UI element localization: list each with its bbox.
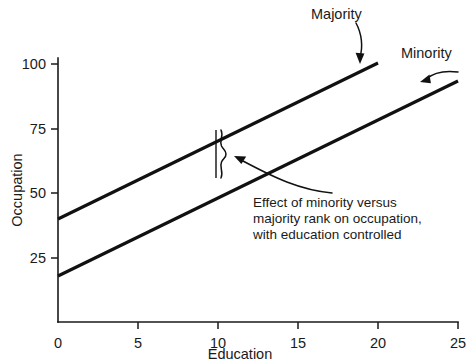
y-axis-title: Occupation: [9, 153, 25, 226]
y-tick-label-100: 100: [22, 56, 46, 72]
x-tick-marks: [138, 322, 458, 329]
chart-canvas: 100 75 50 25 0 5 10 15 20 25 Education O…: [0, 0, 471, 362]
series-line-minority: [58, 81, 458, 276]
annotation-leader-arrow: [234, 156, 332, 193]
annotation-line-1: Effect of minority versus: [253, 195, 397, 210]
chart-figure: 100 75 50 25 0 5 10 15 20 25 Education O…: [0, 0, 471, 362]
x-tick-label-0: 0: [54, 335, 62, 351]
series-label-minority: Minority: [401, 45, 453, 61]
x-tick-label-5: 5: [134, 335, 142, 351]
annotation-text-block: Effect of minority versus majority rank …: [252, 195, 422, 242]
majority-callout-arrow: [356, 23, 365, 64]
x-tick-label-25: 25: [450, 335, 466, 351]
x-tick-label-15: 15: [290, 335, 306, 351]
annotation-line-2: majority rank on occupation,: [253, 211, 422, 226]
x-axis-title: Education: [208, 346, 273, 362]
y-tick-labels: 100 75 50 25: [22, 56, 46, 266]
minority-callout-arrow: [420, 71, 458, 83]
series-label-majority: Majority: [311, 6, 363, 22]
annotation-line-3: with education controlled: [252, 227, 402, 242]
y-tick-label-50: 50: [30, 185, 46, 201]
x-tick-label-20: 20: [370, 335, 386, 351]
y-tick-marks: [51, 64, 58, 258]
y-tick-label-25: 25: [30, 250, 46, 266]
y-tick-label-75: 75: [30, 121, 46, 137]
